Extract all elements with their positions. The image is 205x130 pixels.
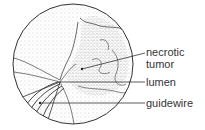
label-lumen: lumen xyxy=(146,77,176,88)
label-necrotic: necrotic xyxy=(146,47,185,58)
endoscopic-view-illustration xyxy=(0,0,205,130)
label-guidewire: guidewire xyxy=(146,98,193,109)
tissue-texture xyxy=(13,4,133,126)
label-tumor: tumor xyxy=(146,59,174,70)
